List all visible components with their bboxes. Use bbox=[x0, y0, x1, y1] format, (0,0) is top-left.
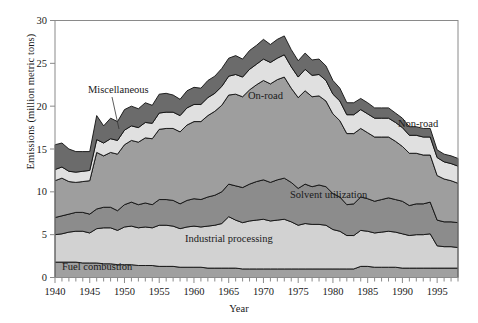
x-tick-label: 1995 bbox=[427, 286, 448, 297]
x-tick-label: 1970 bbox=[253, 286, 274, 297]
y-tick-label: 25 bbox=[37, 58, 48, 69]
y-tick-label: 15 bbox=[37, 144, 48, 155]
emissions-stacked-area-figure: Emissions (million metric tons) Year 051… bbox=[0, 0, 478, 323]
y-tick-label: 0 bbox=[42, 272, 47, 283]
x-tick-label: 1975 bbox=[288, 286, 309, 297]
y-tick-label: 10 bbox=[37, 186, 48, 197]
x-tick-label: 1955 bbox=[149, 286, 170, 297]
y-tick-label: 5 bbox=[42, 229, 47, 240]
area-label-on-road: On-road bbox=[248, 90, 284, 101]
x-tick-label: 1990 bbox=[392, 286, 413, 297]
y-tick-label: 20 bbox=[37, 101, 48, 112]
x-tick-label: 1985 bbox=[357, 286, 378, 297]
x-tick-label: 1980 bbox=[322, 286, 343, 297]
x-tick-label: 1945 bbox=[79, 286, 100, 297]
area-label-industrial-processing: Industrial processing bbox=[185, 233, 274, 244]
x-tick-label: 1965 bbox=[218, 286, 239, 297]
x-tick-label: 1940 bbox=[45, 286, 66, 297]
area-label-non-road: Non-road bbox=[398, 118, 439, 129]
area-label-fuel-combustion: Fuel combustion bbox=[62, 261, 133, 272]
area-label-solvent-utilization: Solvent utilization bbox=[290, 189, 368, 200]
x-tick-label: 1950 bbox=[114, 286, 135, 297]
y-tick-label: 30 bbox=[37, 15, 48, 26]
x-tick-label: 1960 bbox=[183, 286, 204, 297]
area-label-miscellaneous: Miscellaneous bbox=[88, 84, 149, 95]
chart-canvas: 0510152025301940194519501955196019651970… bbox=[0, 0, 478, 323]
